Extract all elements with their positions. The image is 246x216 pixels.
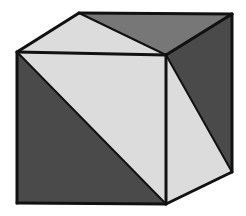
figure-container <box>0 0 246 216</box>
isometric-cube-figure <box>0 0 246 216</box>
edge-bottom-front <box>17 203 166 204</box>
edge-top-back-right <box>79 13 232 14</box>
